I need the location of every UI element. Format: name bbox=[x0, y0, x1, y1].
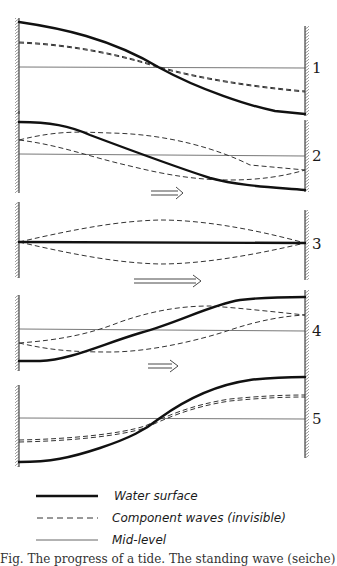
component-wave bbox=[19, 242, 305, 264]
right-arrow-icon bbox=[148, 360, 178, 372]
legend-label: Component waves (invisible) bbox=[112, 511, 286, 525]
panel-label-4: 4 bbox=[312, 322, 322, 340]
component-wave bbox=[19, 140, 305, 180]
left-wall bbox=[15, 385, 19, 467]
panel-label-2: 2 bbox=[312, 147, 322, 165]
panel-2: 2 bbox=[15, 111, 322, 199]
legend-label: Water surface bbox=[114, 489, 198, 503]
legend: Water surface Component waves (invisible… bbox=[36, 489, 286, 547]
component-wave bbox=[19, 315, 305, 352]
right-wall bbox=[305, 26, 309, 116]
component-wave bbox=[19, 306, 305, 343]
right-wall bbox=[305, 290, 309, 370]
panel-3: 3 bbox=[15, 202, 322, 287]
component-wave bbox=[19, 220, 305, 243]
legend-item-component-waves: Component waves (invisible) bbox=[37, 511, 286, 525]
component-wave bbox=[19, 132, 305, 170]
mid-level-line bbox=[19, 329, 305, 331]
left-wall bbox=[15, 295, 19, 371]
right-arrow-icon bbox=[151, 187, 183, 199]
right-wall bbox=[305, 210, 309, 280]
right-wall bbox=[305, 370, 309, 458]
right-wall bbox=[305, 120, 309, 192]
component-wave bbox=[19, 397, 305, 442]
panel-1: 1 bbox=[15, 18, 322, 116]
mid-level-line bbox=[19, 154, 305, 156]
panel-label-5: 5 bbox=[312, 410, 322, 428]
right-arrow-icon bbox=[134, 275, 201, 287]
legend-item-mid-level: Mid-level bbox=[36, 533, 167, 547]
left-wall bbox=[15, 202, 19, 278]
water-surface bbox=[19, 242, 305, 243]
legend-label: Mid-level bbox=[112, 533, 167, 547]
component-wave bbox=[19, 42, 305, 91]
panel-4: 4 bbox=[15, 290, 322, 372]
panel-label-3: 3 bbox=[312, 235, 322, 253]
panel-label-1: 1 bbox=[312, 59, 322, 77]
water-surface bbox=[19, 377, 305, 462]
left-wall bbox=[15, 111, 19, 193]
panel-5: 5 bbox=[15, 370, 322, 467]
left-wall bbox=[15, 18, 19, 114]
figure-caption: Fig. The progress of a tide. The standin… bbox=[0, 552, 337, 566]
legend-item-water-surface: Water surface bbox=[36, 489, 198, 503]
